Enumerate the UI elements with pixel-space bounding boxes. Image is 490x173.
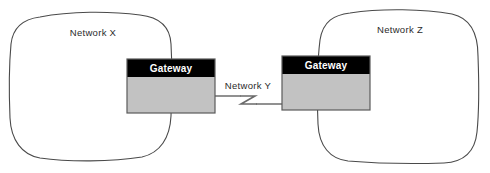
gateway-left-body-panel — [127, 77, 215, 113]
gateway-right[interactable]: Gateway — [282, 56, 370, 110]
lightning-zigzag-icon — [240, 96, 257, 104]
gateway-right-label: Gateway — [305, 60, 348, 71]
gateway-left[interactable]: Gateway — [127, 59, 215, 113]
gateway-right-body-panel — [282, 74, 370, 110]
network-diagram-svg: Network X Network Z Network Y Gateway Ga… — [0, 0, 490, 173]
network-y-link[interactable]: Network Y — [215, 80, 282, 104]
cloud-network-x-label: Network X — [70, 27, 117, 38]
network-diagram-canvas: Network X Network Z Network Y Gateway Ga… — [0, 0, 490, 173]
network-y-link-label: Network Y — [225, 80, 272, 91]
gateway-left-label: Gateway — [150, 63, 193, 74]
cloud-network-z-label: Network Z — [377, 24, 423, 35]
